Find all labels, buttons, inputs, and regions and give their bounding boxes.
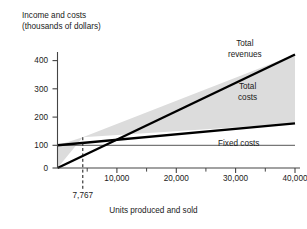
series-label-fixed-costs-line1: Fixed costs <box>218 139 259 150</box>
series-label-total-revenues-line2: revenues <box>228 50 262 61</box>
series-label-total-revenues-line1: Total <box>228 39 262 50</box>
x-axis-title: Units produced and sold <box>0 206 307 217</box>
series-label-total-costs-line2: costs <box>238 93 257 104</box>
breakeven-annotation-label: 7,767 <box>61 191 105 200</box>
x-tick-label-20000: 20,000 <box>154 174 198 183</box>
breakeven-chart: Income and costs (thousands of dollars) <box>0 0 307 229</box>
x-tick-label-40000: 40,000 <box>273 174 307 183</box>
series-label-total-costs: Total costs <box>238 82 257 103</box>
series-label-total-costs-line1: Total <box>238 82 257 93</box>
x-tick-label-10000: 10,000 <box>95 174 139 183</box>
y-axis-ticks <box>53 61 58 168</box>
loss-area-shading <box>58 137 83 168</box>
series-label-total-revenues: Total revenues <box>228 39 262 60</box>
y-tick-label-100: 100 <box>18 141 48 150</box>
profit-area-shading <box>83 55 295 138</box>
x-tick-label-30000: 30,000 <box>214 174 258 183</box>
y-tick-label-400: 400 <box>18 56 48 65</box>
y-tick-label-200: 200 <box>18 113 48 122</box>
y-tick-label-0: 0 <box>18 164 48 173</box>
y-tick-label-300: 300 <box>18 85 48 94</box>
series-label-fixed-costs: Fixed costs <box>218 139 259 150</box>
